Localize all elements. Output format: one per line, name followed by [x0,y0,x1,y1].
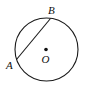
label-a: A [5,59,13,71]
label-b: B [48,4,55,16]
center-point [44,48,48,52]
label-o: O [42,53,50,65]
geometry-figure: B A O [0,0,106,92]
